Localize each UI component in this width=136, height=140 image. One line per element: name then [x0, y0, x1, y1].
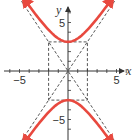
y-tick-label: −5 [52, 114, 65, 126]
x-axis-label: x [125, 64, 132, 78]
x-tick-label: −5 [13, 74, 26, 86]
x-tick-label: 5 [113, 74, 119, 86]
y-axis-label: y [55, 3, 62, 17]
y-tick-label: 5 [59, 17, 65, 29]
hyperbola-chart: −555−5 x y [0, 0, 136, 140]
